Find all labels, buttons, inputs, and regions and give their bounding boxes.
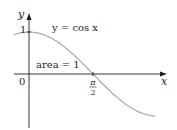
area-annotation: area = 1 [36, 59, 80, 70]
origin-label: 0 [19, 76, 25, 87]
x-axis-label: x [161, 75, 168, 88]
y-axis-label: y [17, 8, 25, 21]
x-tick-label-numerator: π [89, 78, 96, 87]
function-label: y = cos x [51, 22, 98, 33]
y-axis-arrow-icon [27, 13, 32, 20]
chart: y x 0 1 y = cos x area = 1 π 2 [0, 0, 177, 130]
x-tick-label-denominator: 2 [90, 88, 95, 97]
y-tick-label-1: 1 [20, 24, 26, 35]
